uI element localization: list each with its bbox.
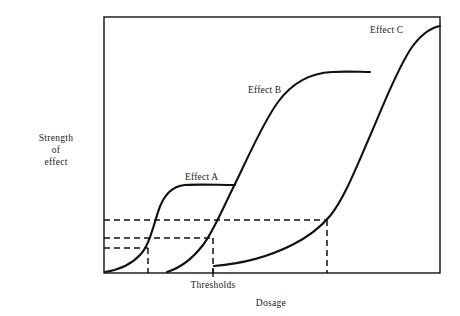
- series-label-effect-a: Effect A: [185, 172, 218, 182]
- curve-effect-a: [105, 185, 235, 272]
- plot-frame: [104, 17, 440, 273]
- dose-response-chart: Strength of effect Effect A Effect B Eff…: [0, 0, 460, 316]
- x-axis-label: Dosage: [256, 298, 286, 308]
- y-axis-label-line-3: effect: [44, 157, 67, 167]
- thresholds-label: Thresholds: [190, 280, 235, 290]
- y-axis-label-line-2: of: [52, 145, 61, 155]
- y-axis-label-line-1: Strength: [39, 133, 74, 143]
- series-label-effect-c: Effect C: [370, 25, 403, 35]
- series-label-effect-b: Effect B: [248, 85, 281, 95]
- chart-canvas: Strength of effect Effect A Effect B Eff…: [0, 0, 460, 316]
